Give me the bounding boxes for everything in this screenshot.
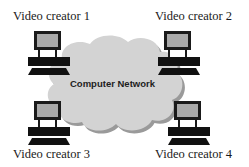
monitor bbox=[174, 101, 201, 120]
computer-icon bbox=[28, 31, 72, 77]
computer-icon bbox=[168, 101, 212, 147]
monitor-screen bbox=[177, 104, 198, 117]
node-label-creator-4: Video creator 4 bbox=[155, 148, 232, 161]
computer-base bbox=[28, 57, 70, 66]
computer-base bbox=[28, 127, 70, 136]
monitor-stand bbox=[168, 50, 187, 57]
monitor-screen bbox=[37, 104, 58, 117]
keyboard-icon bbox=[158, 68, 200, 75]
computer-base bbox=[158, 57, 200, 66]
monitor-screen bbox=[37, 34, 58, 47]
computer-base bbox=[168, 127, 210, 136]
monitor bbox=[164, 31, 191, 50]
monitor bbox=[34, 31, 61, 50]
keyboard-icon bbox=[28, 138, 70, 145]
network-diagram: Computer Network Video cre bbox=[0, 0, 249, 167]
monitor bbox=[34, 101, 61, 120]
keyboard-icon bbox=[28, 68, 70, 75]
node-label-creator-2: Video creator 2 bbox=[155, 10, 232, 23]
monitor-stand bbox=[178, 120, 197, 127]
keyboard-icon bbox=[168, 138, 210, 145]
node-label-creator-3: Video creator 3 bbox=[13, 148, 90, 161]
monitor-screen bbox=[167, 34, 188, 47]
monitor-stand bbox=[38, 50, 57, 57]
node-label-creator-1: Video creator 1 bbox=[13, 10, 90, 23]
computer-icon bbox=[158, 31, 202, 77]
computer-icon bbox=[28, 101, 72, 147]
monitor-stand bbox=[38, 120, 57, 127]
network-label: Computer Network bbox=[70, 79, 155, 89]
